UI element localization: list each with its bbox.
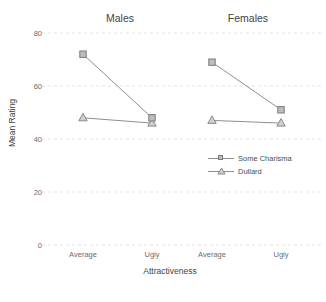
legend-label-dullard: Dullard xyxy=(234,167,262,176)
ytick-label-20: 20 xyxy=(20,188,42,197)
xtick-label-females-ugly: Ugly xyxy=(251,250,311,259)
yaxis-title: Mean Rating xyxy=(7,83,17,163)
gridlines xyxy=(42,33,322,245)
ytick-label-80: 80 xyxy=(20,29,42,38)
xtick-label-females-average: Average xyxy=(182,250,242,259)
xtick-label-males-ugly: Ugly xyxy=(122,250,182,259)
chart-container: Males Females xyxy=(0,0,326,302)
legend-triangle-marker-icon xyxy=(208,165,234,177)
legend-label-some-charisma: Some Charisma xyxy=(234,154,292,163)
ytick-label-60: 60 xyxy=(20,82,42,91)
xtick-label-males-average: Average xyxy=(53,250,113,259)
marker-females-charisma-average xyxy=(209,59,215,65)
series-males-dullard xyxy=(83,118,152,123)
legend-item-dullard[interactable]: Dullard xyxy=(208,165,323,177)
series-females-dullard xyxy=(212,120,281,123)
xaxis-title: Attractiveness xyxy=(110,266,230,276)
marker-males-dullard-average xyxy=(79,113,87,121)
marker-females-dullard-average xyxy=(208,116,216,124)
marker-males-charisma-ugly xyxy=(149,115,155,121)
ytick-label-40: 40 xyxy=(20,135,42,144)
marker-males-charisma-average xyxy=(80,51,86,57)
legend-item-some-charisma[interactable]: Some Charisma xyxy=(208,152,323,164)
marker-females-dullard-ugly xyxy=(277,119,285,127)
legend-square-marker-icon xyxy=(208,152,234,164)
chart-legend: Some Charisma Dullard xyxy=(208,152,323,178)
ytick-label-0: 0 xyxy=(20,241,42,250)
series-males-some-charisma xyxy=(83,54,152,118)
marker-females-charisma-ugly xyxy=(278,107,284,113)
